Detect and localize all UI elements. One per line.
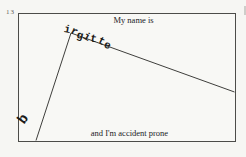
cartoon-frame	[18, 13, 236, 142]
caption-text: and I'm accident prone	[18, 128, 235, 138]
book-page: 13 My name is irgitte b and I'm accident…	[0, 0, 246, 157]
page-number: 13	[6, 8, 15, 16]
name-tag-top-text: My name is	[18, 15, 235, 25]
facing-page-edge-mark	[244, 6, 246, 15]
